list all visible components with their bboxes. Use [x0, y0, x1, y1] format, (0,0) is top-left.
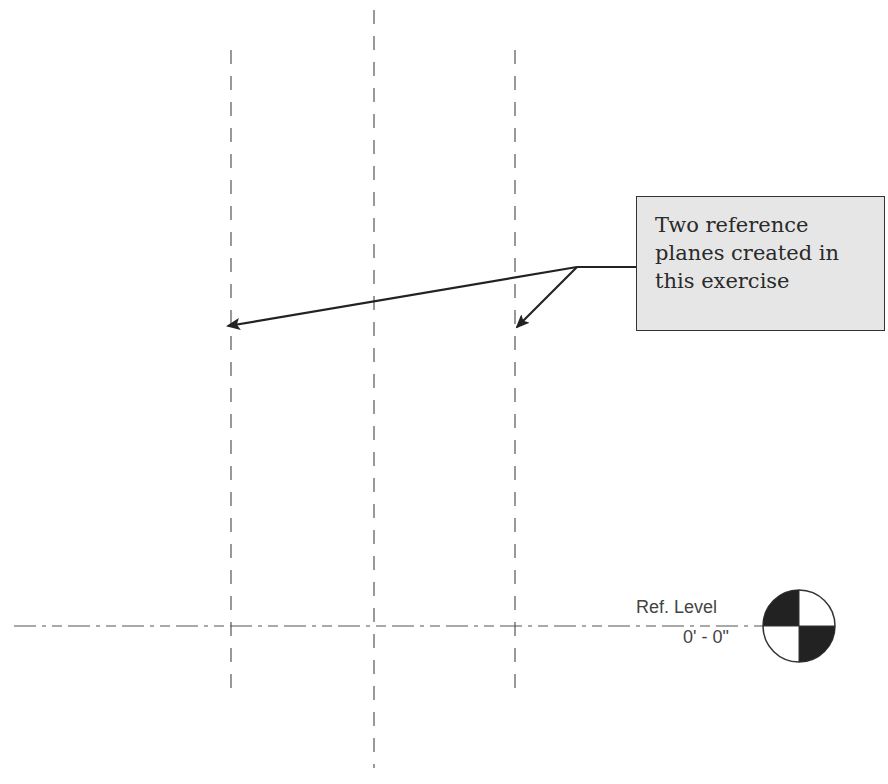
- callout-line-3: this exercise: [655, 267, 884, 295]
- level-elevation-label[interactable]: 0' - 0": [683, 627, 729, 647]
- level-marker-icon[interactable]: [763, 590, 835, 662]
- leader-arrow-left: [228, 267, 577, 326]
- callout-line-1: Two reference: [655, 211, 884, 239]
- callout-line-2: planes created in: [655, 239, 884, 267]
- level-name-label[interactable]: Ref. Level: [636, 597, 717, 617]
- callout-box: Two reference planes created in this exe…: [636, 196, 885, 331]
- drawing-canvas: [0, 0, 888, 784]
